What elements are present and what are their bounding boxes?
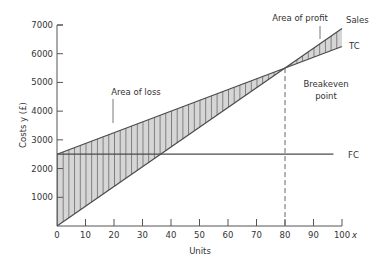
- y-tick-label: 3000: [31, 135, 53, 145]
- x-tick-label: 40: [166, 230, 177, 240]
- y-axis-title: Costs y (£): [18, 102, 28, 148]
- area-of-loss-label: Area of loss: [111, 87, 161, 97]
- y-tick-label: 7000: [31, 20, 53, 30]
- breakeven-label-line2: point: [315, 91, 337, 101]
- sales-series-label: Sales: [346, 15, 369, 25]
- x-tick-label: 100: [334, 230, 350, 240]
- area-of-profit-label: Area of profit: [272, 13, 328, 23]
- breakeven-chart: 1000200030004000500060007000010203040506…: [0, 0, 383, 264]
- x-tick-label: 10: [80, 230, 91, 240]
- x-axis-title: Units: [189, 246, 211, 256]
- x-axis-symbol: x: [351, 230, 358, 240]
- y-tick-label: 4000: [31, 106, 53, 116]
- sales-line: [57, 29, 342, 226]
- y-tick-label: 1000: [31, 192, 53, 202]
- tc-line: [57, 47, 342, 155]
- tc-series-label: TC: [348, 41, 360, 51]
- x-tick-label: 20: [109, 230, 120, 240]
- x-tick-label: 30: [137, 230, 148, 240]
- x-tick-label: 60: [223, 230, 234, 240]
- x-tick-label: 50: [194, 230, 205, 240]
- y-tick-label: 2000: [31, 164, 53, 174]
- x-tick-label: 0: [54, 230, 59, 240]
- plot-area: 1000200030004000500060007000010203040506…: [31, 20, 350, 240]
- x-tick-label: 90: [308, 230, 319, 240]
- x-tick-label: 80: [280, 230, 291, 240]
- y-tick-label: 5000: [31, 77, 53, 87]
- fc-series-label: FC: [348, 150, 359, 160]
- y-tick-label: 6000: [31, 49, 53, 59]
- breakeven-label-line1: Breakeven: [303, 79, 348, 89]
- x-tick-label: 70: [251, 230, 262, 240]
